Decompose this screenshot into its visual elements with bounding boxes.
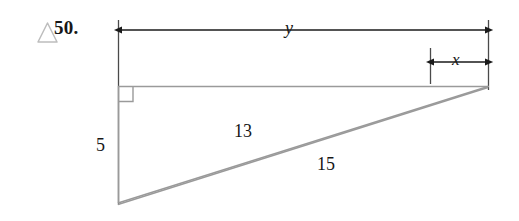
dimension-label-y: y: [285, 19, 293, 37]
triangle-hypotenuse-15: [118, 88, 488, 205]
side-label-13: 13: [234, 122, 252, 140]
geometry-figure: 50. y x 5 13 15: [0, 0, 519, 221]
side-label-15: 15: [317, 155, 335, 173]
side-label-5: 5: [96, 136, 105, 154]
right-angle-marker-icon: [119, 87, 134, 102]
dimension-label-x: x: [452, 51, 460, 68]
problem-number: 50.: [54, 18, 79, 37]
triangle-hypotenuse-13: [118, 87, 488, 204]
